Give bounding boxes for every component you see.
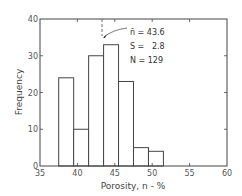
x-tick-label: 50 [147, 169, 157, 178]
histogram-bar [89, 56, 104, 166]
histogram-bar [134, 148, 149, 166]
x-tick-label: 60 [222, 169, 232, 178]
porosity-histogram: 354045505560 010203040 Porosity, n - % F… [0, 0, 242, 196]
mean-arrow [104, 28, 127, 37]
stat-count: N = 129 [130, 56, 163, 65]
arrow-head-icon [103, 34, 107, 38]
histogram-bar [59, 78, 74, 166]
y-tick-label: 30 [28, 52, 38, 61]
x-tick-label: 40 [72, 169, 82, 178]
histogram-bar [148, 151, 163, 166]
y-tick-label: 10 [28, 125, 38, 134]
y-tick-label: 40 [28, 15, 38, 24]
stat-std-dev: S = 2.8 [130, 42, 165, 51]
x-axis-label: Porosity, n - % [101, 181, 166, 191]
stat-mean: n̄ = 43.6 [130, 28, 165, 37]
y-tick-label: 20 [28, 89, 38, 98]
x-tick-label: 55 [185, 169, 195, 178]
histogram-bar [104, 45, 119, 166]
y-axis-label: Frequency [14, 68, 24, 115]
histogram-bar [119, 81, 134, 166]
y-tick-label: 0 [33, 162, 38, 171]
x-tick-label: 45 [110, 169, 120, 178]
histogram-bar [74, 129, 89, 166]
